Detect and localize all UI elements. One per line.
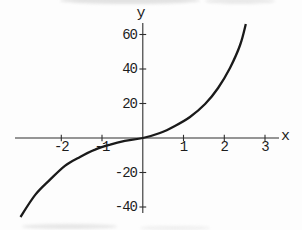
function-curve: [21, 24, 246, 217]
x-axis-label: x: [281, 129, 290, 144]
y-tick-label: 60: [96, 28, 137, 42]
plot-canvas: [0, 0, 302, 230]
y-tick-label: -20: [96, 166, 137, 180]
x-tick-label: 1: [180, 140, 187, 154]
y-tick-label: 20: [96, 97, 137, 111]
function-plot-figure: -2-1123604020-20-40 y x: [0, 0, 302, 230]
y-tick-label: 40: [96, 62, 137, 76]
x-tick-label: 2: [221, 140, 228, 154]
x-tick-label: -2: [54, 140, 69, 154]
x-tick-label: 3: [261, 140, 268, 154]
x-tick-label: -1: [95, 140, 110, 154]
y-tick-label: -40: [96, 200, 137, 214]
y-axis-label: y: [136, 6, 145, 21]
